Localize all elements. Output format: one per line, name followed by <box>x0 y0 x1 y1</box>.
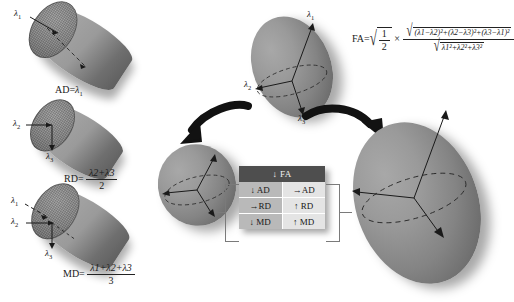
rd-lambda3-label: λ3 <box>46 151 53 163</box>
bracket-left-stem <box>214 212 226 213</box>
fa-denominator: λ1²+λ2²+λ3² <box>440 42 484 53</box>
md-caption: MD= λ1+λ2+λ3 3 <box>63 262 135 287</box>
md-lambda1-label: λ1 <box>11 195 18 207</box>
ad-axis-arrow <box>0 0 175 110</box>
fa-formula: FA=√ 1 2 × √(λ1−λ2)²+(λ2−λ3)²+(λ3−λ1)² √… <box>352 26 514 54</box>
fa-lhs: FA= <box>352 33 370 44</box>
cell-ad-unchanged: →AD <box>282 182 326 197</box>
bracket-left <box>225 184 239 242</box>
cell-ad-decrease: ↓ AD <box>239 182 282 197</box>
bracket-right <box>326 184 340 242</box>
md-lambda2-label: λ2 <box>11 216 18 228</box>
table-row: ↓ MD ↑ MD <box>239 213 325 229</box>
ad-lambda1-label: λ1 <box>14 8 21 20</box>
md-denominator: 3 <box>87 274 135 287</box>
table-header-fa: ↓ FA <box>239 166 325 182</box>
fa-half-num: 1 <box>379 28 390 40</box>
center-lambda1-label: λ1 <box>307 9 314 21</box>
fa-times: × <box>394 33 400 44</box>
rd-lambda2-label: λ2 <box>13 118 20 130</box>
fa-comparison-table: ↓ FA ↓ AD →AD →RD ↑ RD ↓ MD ↑ MD <box>239 166 325 229</box>
cell-rd-unchanged: →RD <box>239 197 282 213</box>
md-lambda3-label: λ3 <box>45 248 52 260</box>
cell-md-increase: ↑ MD <box>282 213 326 229</box>
md-numerator: λ1+λ2+λ3 <box>87 262 135 274</box>
center-lambda2-label: λ2 <box>244 79 251 91</box>
fa-numerator: (λ1−λ2)²+(λ2−λ3)²+(λ3−λ1)² <box>413 27 512 37</box>
table-row: ↓ AD →AD <box>239 182 325 197</box>
large-ellipsoid-axes <box>346 112 510 298</box>
cell-rd-increase: ↑ RD <box>282 197 326 213</box>
cell-md-decrease: ↓ MD <box>239 213 282 229</box>
fa-half-sqrt: √ 1 2 <box>370 27 392 53</box>
rd-numerator: λ2+λ3 <box>86 167 117 179</box>
table-row: →RD ↑ RD <box>239 197 325 213</box>
large-ellipsoid-panel <box>346 112 510 298</box>
fa-half-den: 2 <box>379 40 390 53</box>
ad-panel: λ1 AD=λ1 <box>0 0 175 110</box>
